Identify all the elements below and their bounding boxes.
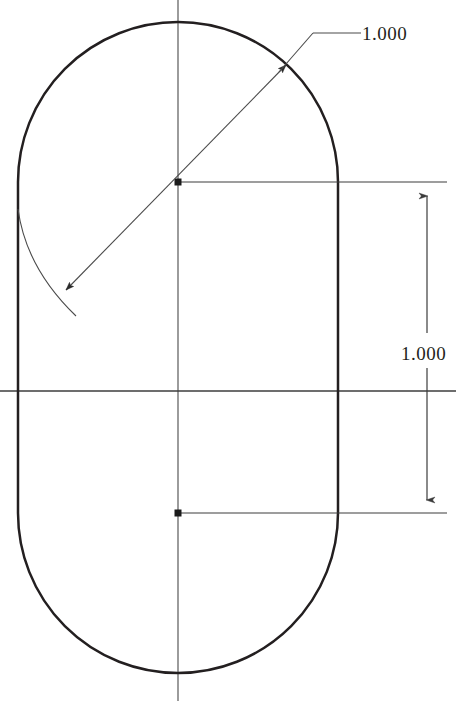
centerlines-group <box>0 0 456 701</box>
diameter-dimension-value[interactable]: 1.000 <box>362 23 407 45</box>
drawing-svg <box>0 0 456 701</box>
diameter-dimension-leader[interactable] <box>18 33 361 316</box>
lower-arc-center-point <box>175 510 182 517</box>
center-distance-dimension-value[interactable]: 1.000 <box>401 343 446 365</box>
technical-drawing-canvas: 1.000 1.000 <box>0 0 456 701</box>
leader-line-angled <box>279 33 313 72</box>
upper-arc-center-point <box>175 179 182 186</box>
radius-witness-arc <box>18 209 76 316</box>
diameter-dimension-line <box>66 65 286 290</box>
